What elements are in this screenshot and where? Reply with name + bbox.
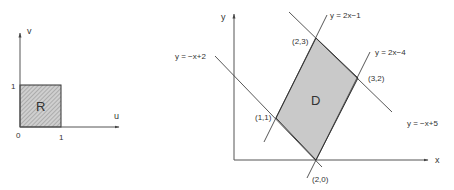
- vertex-2-0: (2,0): [312, 175, 329, 184]
- x-axis-label: x: [435, 155, 440, 165]
- xy-plane: y x D y = 2x−1 y = 2x−4 y = −x+2 y = −x+…: [175, 11, 440, 184]
- vertex-1-1: (1,1): [255, 113, 272, 122]
- uv-plane: v u 1 0 1 R: [11, 26, 119, 142]
- vertex-3-2: (3,2): [368, 74, 385, 83]
- origin-label: 0: [16, 131, 21, 140]
- y-axis-label: y: [221, 12, 226, 22]
- diagram-canvas: v u 1 0 1 R y x D y = 2x−1 y = 2x−4 y = …: [0, 0, 454, 190]
- region-r-label: R: [36, 99, 45, 114]
- u-axis-label: u: [114, 111, 119, 121]
- vertex-2-3: (2,3): [292, 37, 309, 46]
- v-tick-one: 1: [11, 82, 16, 91]
- u-tick-one: 1: [59, 133, 64, 142]
- label-line-neg-x-plus-5: y = −x+5: [407, 119, 438, 128]
- label-line-2x-minus-1: y = 2x−1: [330, 11, 361, 20]
- label-line-neg-x-plus-2: y = −x+2: [175, 52, 206, 61]
- v-axis-label: v: [27, 26, 32, 36]
- label-line-2x-minus-4: y = 2x−4: [375, 48, 406, 57]
- region-d-label: D: [311, 93, 320, 108]
